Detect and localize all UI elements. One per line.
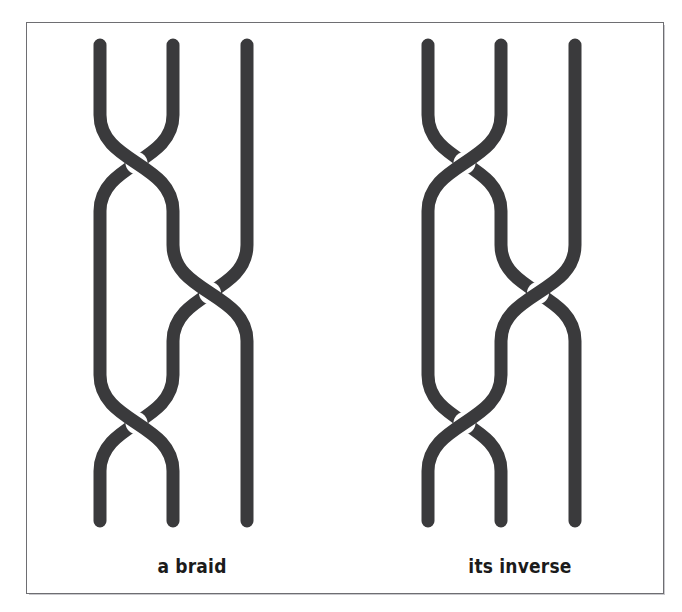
braid-diagram-a-braid <box>67 23 317 543</box>
figure-page: a braid its inverse <box>0 0 682 612</box>
braid-strands-group <box>67 23 317 543</box>
braid-diagram-its-inverse <box>395 23 645 543</box>
caption-a-braid: a braid <box>67 555 317 577</box>
figure-frame: a braid its inverse <box>26 22 664 594</box>
caption-its-inverse: its inverse <box>395 555 645 577</box>
braid-strands-group <box>395 23 645 543</box>
